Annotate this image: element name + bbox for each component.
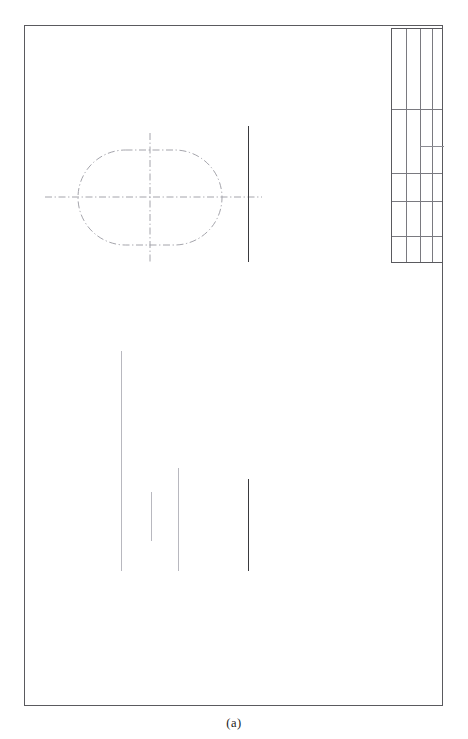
- drawing-border: [24, 25, 443, 706]
- title-block: [391, 28, 443, 263]
- title-block-column-divider-1: [406, 29, 407, 262]
- upper-right-vertical-line: [248, 126, 249, 262]
- title-block-row-divider-2: [392, 173, 442, 174]
- title-block-row-divider-1: [392, 109, 442, 110]
- lower-line-2: [151, 492, 152, 541]
- lower-line-3: [178, 468, 179, 571]
- title-block-row-divider-3: [392, 201, 442, 202]
- title-block-row-divider-4: [392, 236, 442, 237]
- figure-caption: (a): [0, 716, 468, 731]
- figure-sheet: (a): [0, 0, 468, 739]
- lower-line-1: [121, 351, 122, 571]
- title-block-partial-row-divider: [420, 146, 444, 147]
- lower-line-4: [248, 479, 249, 571]
